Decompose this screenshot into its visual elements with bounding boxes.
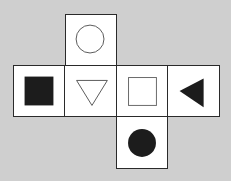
face-left: [13, 65, 65, 117]
face-bottom: [116, 116, 168, 169]
circle-outline-icon: [66, 15, 116, 65]
triangle-down-outline-icon: [65, 66, 117, 116]
square-outline-icon: [117, 66, 167, 116]
face-right-2: [167, 65, 220, 117]
circle-filled-icon: [117, 117, 167, 168]
triangle-left-filled-icon: [168, 66, 219, 116]
face-right-1: [116, 65, 168, 117]
face-top: [65, 14, 117, 66]
face-center: [64, 65, 118, 117]
square-filled-icon: [14, 66, 64, 116]
